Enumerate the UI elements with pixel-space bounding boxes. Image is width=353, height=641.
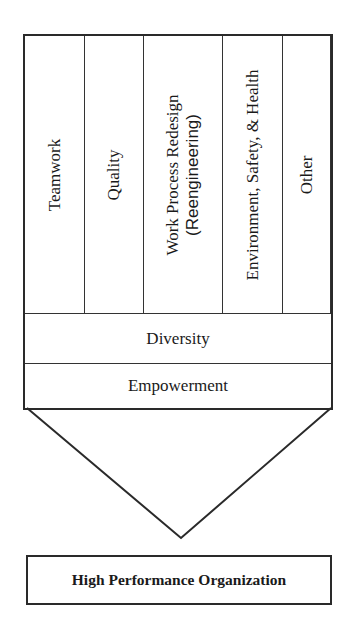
funnel-triangle (0, 0, 353, 641)
result-box: High Performance Organization (26, 555, 332, 605)
result-label: High Performance Organization (72, 571, 286, 589)
